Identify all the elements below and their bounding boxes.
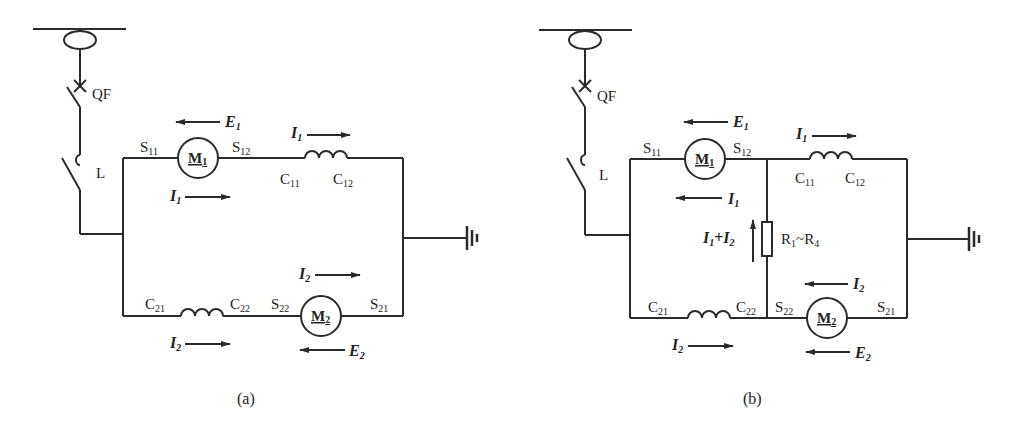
current-transformer-icon: [64, 31, 96, 49]
label-s22: S22: [271, 296, 289, 314]
ground-icon: [467, 226, 477, 250]
inductor-c2-icon: [181, 309, 223, 316]
label-s12: S12: [232, 139, 250, 157]
panel-b: QF L M1 M2 S11 S12: [539, 30, 979, 408]
label-m1: M1: [695, 151, 714, 168]
inductor-c1-icon: [305, 151, 347, 158]
label-c21: C21: [145, 296, 165, 314]
label-c12: C12: [845, 170, 865, 188]
label-s11: S11: [643, 140, 661, 158]
label-m1: M1: [188, 150, 207, 167]
label-c11: C11: [280, 171, 300, 189]
current-transformer-icon: [569, 31, 601, 49]
panel-a: QF L M1 M2 S11 S12 C11: [33, 29, 477, 408]
inductor-c2-icon: [688, 311, 730, 318]
label-s12: S12: [733, 140, 751, 158]
label-resistor: R1~R4: [781, 231, 819, 249]
caption-a: (a): [237, 390, 255, 408]
switch-l-icon: [62, 155, 123, 234]
label-i2: I2: [169, 334, 181, 353]
label-e2: E2: [348, 342, 365, 361]
ground-icon: [969, 227, 979, 251]
label-s11: S11: [140, 139, 158, 157]
label-i1: I1: [169, 187, 181, 206]
label-c22: C22: [230, 296, 250, 314]
label-qf: QF: [92, 86, 111, 102]
label-i1: I1: [727, 190, 739, 209]
label-l: L: [96, 165, 105, 181]
breaker-qf-icon: [67, 80, 86, 155]
label-s21: S21: [370, 296, 388, 314]
label-l: L: [599, 167, 608, 183]
label-m2: M2: [817, 310, 836, 327]
label-i2-top: I2: [852, 275, 864, 294]
label-i-sum: I1+I2: [702, 229, 735, 248]
label-m2: M2: [311, 308, 330, 325]
label-e1: E1: [224, 113, 241, 132]
label-c21: C21: [648, 299, 668, 317]
label-c11: C11: [795, 170, 815, 188]
label-i1-top: I1: [290, 124, 302, 143]
resistor-icon: [762, 222, 772, 256]
circuit-diagram: QF L M1 M2 S11 S12 C11: [0, 0, 1012, 433]
caption-b: (b): [743, 390, 762, 408]
breaker-qf-icon: [572, 80, 591, 155]
label-c12: C12: [333, 171, 353, 189]
label-s22: S22: [775, 299, 793, 317]
label-i1-top: I1: [795, 125, 807, 144]
inductor-c1-icon: [810, 152, 852, 159]
label-c22: C22: [736, 299, 756, 317]
label-i2-top: I2: [298, 265, 310, 284]
label-i2: I2: [671, 336, 683, 355]
label-s21: S21: [877, 299, 895, 317]
label-e2: E2: [854, 344, 871, 363]
label-e1: E1: [732, 113, 749, 132]
label-qf: QF: [597, 88, 616, 104]
